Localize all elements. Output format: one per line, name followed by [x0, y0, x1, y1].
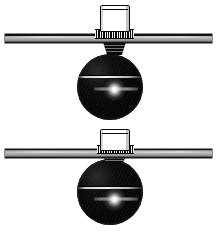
sphere-upper: [77, 54, 143, 120]
neck-ring-lower-2: [103, 160, 126, 161]
neck-ring-lower-1: [103, 158, 126, 159]
stem-cap-rim-upper: [102, 9, 128, 12]
assembly-upper: [0, 0, 216, 120]
sphere-rim-light-lower: [77, 159, 143, 225]
neck-ring-upper-2: [103, 48, 126, 49]
figure-canvas: [0, 0, 216, 231]
neck-ring-upper-1: [103, 45, 126, 46]
stem-cap-upper: [100, 5, 130, 32]
sphere-rim-light-upper: [77, 54, 143, 120]
neck-upper: [103, 42, 126, 55]
assembly-lower: [0, 115, 216, 231]
stem-cap-lower: [100, 129, 130, 151]
sphere-lower: [77, 159, 143, 225]
stem-cap-rim-lower: [102, 133, 128, 136]
neck-ring-upper-3: [103, 51, 126, 52]
